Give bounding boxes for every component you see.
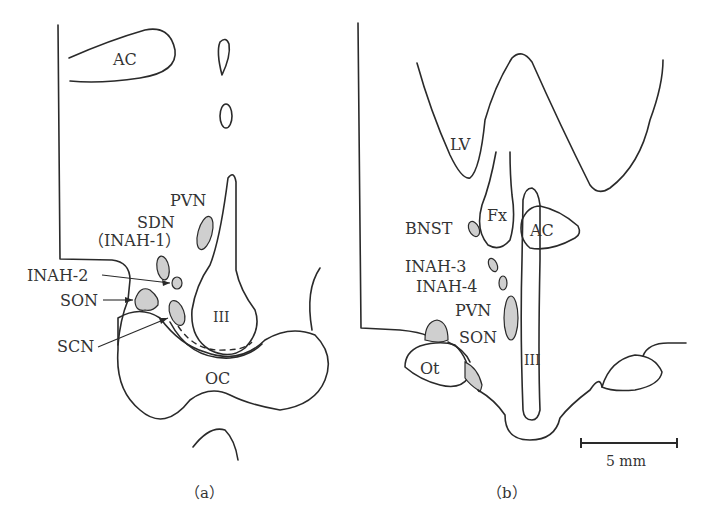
label-inah4: INAH-4 [416, 277, 477, 296]
label-ac: AC [112, 50, 137, 69]
label-ot: Ot [420, 359, 440, 378]
optic-chiasm-shape [118, 312, 329, 419]
sdn-nucleus [155, 255, 171, 281]
caption-a: （a） [185, 484, 224, 502]
inah3-nucleus [486, 257, 499, 273]
label-son-b: SON [459, 328, 497, 347]
caption-b: （b） [487, 484, 527, 502]
label-inah2: INAH-2 [27, 266, 88, 285]
leader-scn [98, 318, 168, 347]
son-nucleus-a [135, 289, 158, 311]
optic-tract-line [310, 268, 320, 330]
label-son-a: SON [60, 291, 98, 310]
panel-b: LV Fx III AC BNST INAH-3 INAH-4 PVN SON … [358, 23, 686, 502]
scn-nucleus [166, 298, 188, 327]
inah4-nucleus [499, 276, 507, 290]
panel-a: AC III OC PVN SDN （INAH-1） INAH-2 [27, 25, 328, 502]
lateral-ventricle-shape [417, 54, 663, 192]
label-inah3: INAH-3 [405, 257, 466, 276]
son-nucleus-b-upper [425, 320, 448, 342]
label-bnst: BNST [405, 219, 453, 238]
pvn-nucleus-a [194, 215, 216, 251]
arrowhead-inah2 [162, 280, 170, 286]
lower-arc-shape [193, 429, 238, 460]
label-pvn-a: PVN [170, 191, 206, 210]
son-nucleus-b-lower [465, 362, 482, 392]
inah2-nucleus [172, 277, 182, 289]
teardrop-shape [218, 39, 229, 75]
label-fx: Fx [487, 206, 507, 225]
fornix-shape [480, 152, 514, 248]
label-scn: SCN [57, 337, 94, 356]
label-iii-b: III [524, 352, 541, 368]
scale-bar-label: 5 mm [606, 453, 646, 469]
right-oval-shape [602, 355, 662, 391]
label-inah1: （INAH-1） [88, 231, 181, 250]
hypothalamus-diagram: AC III OC PVN SDN （INAH-1） INAH-2 [0, 0, 711, 524]
label-pvn-b: PVN [455, 301, 491, 320]
pvn-nucleus-b [504, 296, 518, 340]
label-iii-a: III [213, 309, 230, 325]
small-oval-shape [220, 104, 232, 128]
right-line [643, 343, 686, 356]
label-oc: OC [205, 369, 230, 388]
label-ac-b: AC [529, 221, 554, 240]
label-lv: LV [450, 135, 471, 154]
label-sdn: SDN [137, 213, 175, 232]
